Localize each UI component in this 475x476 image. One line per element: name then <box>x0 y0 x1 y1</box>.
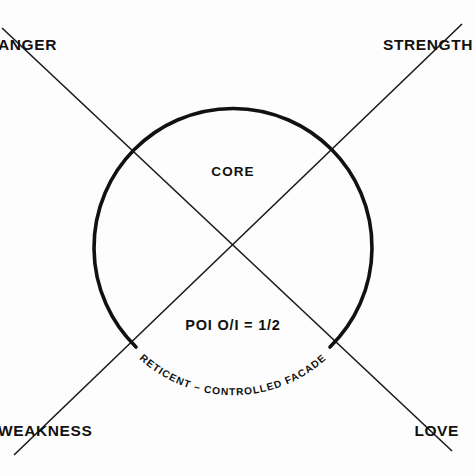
core-label: CORE <box>211 164 254 179</box>
quadrant-label-love: LOVE <box>414 422 459 439</box>
arc-caption-text: RETICENT – CONTROLLED FACADE <box>138 352 328 397</box>
core-circle <box>94 108 372 347</box>
arc-caption: RETICENT – CONTROLLED FACADE <box>138 352 328 397</box>
quadrant-label-strength: STRENGTH <box>383 36 473 53</box>
formula-label: POI O/I = 1/2 <box>185 317 280 333</box>
core-quadrant-diagram: ANGER STRENGTH WEAKNESS LOVE CORE POI O/… <box>0 0 475 476</box>
quadrant-label-anger: ANGER <box>0 36 57 53</box>
diagram-canvas: ANGER STRENGTH WEAKNESS LOVE CORE POI O/… <box>0 0 475 476</box>
quadrant-label-weakness: WEAKNESS <box>0 422 92 439</box>
